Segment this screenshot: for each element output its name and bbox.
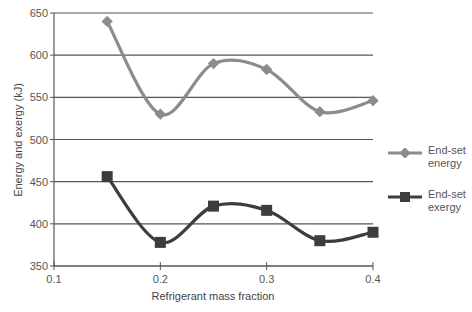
y-tick-label: 350: [30, 260, 48, 272]
legend-item-exergy: End-set exergy: [388, 188, 472, 232]
x-axis-title: Refrigerant mass fraction: [152, 290, 275, 302]
y-tick-label: 400: [30, 218, 48, 230]
diamond-marker-icon: [314, 106, 325, 117]
legend-text: exergy: [428, 201, 472, 214]
square-marker-icon: [102, 171, 113, 182]
diamond-marker-icon: [388, 148, 422, 158]
square-marker-icon: [314, 235, 325, 246]
x-tick-label: 0.4: [365, 273, 380, 285]
square-marker-icon: [368, 227, 379, 238]
square-marker-icon: [155, 237, 166, 248]
y-tick-label: 500: [30, 134, 48, 146]
gridlines: [54, 13, 373, 266]
series-end-set-energy: [102, 16, 379, 120]
x-tick-label: 0.1: [46, 273, 61, 285]
y-axis-title: Energy and exergy (kJ): [12, 83, 24, 197]
x-tick-label: 0.3: [259, 273, 274, 285]
y-tick-label: 450: [30, 176, 48, 188]
legend-text: End-set: [428, 188, 472, 201]
diamond-marker-icon: [102, 16, 113, 27]
series-end-set-exergy: [102, 171, 379, 248]
legend-label-energy: End-set energy: [428, 144, 472, 170]
y-tick-label: 600: [30, 49, 48, 61]
data-series: [102, 16, 379, 248]
legend-text: End-set: [428, 144, 472, 157]
y-tick-label: 550: [30, 91, 48, 103]
square-marker-icon: [208, 201, 219, 212]
y-tick-label: 650: [30, 7, 48, 19]
legend-text: energy: [428, 157, 472, 170]
x-tick-label: 0.2: [153, 273, 168, 285]
y-axis-ticks: 350400450500550600650: [30, 7, 54, 272]
legend-label-exergy: End-set exergy: [428, 188, 472, 214]
legend-item-energy: End-set energy: [388, 144, 472, 188]
legend: End-set energy End-set exergy: [388, 144, 472, 232]
square-marker-icon: [261, 205, 272, 216]
square-marker-icon: [388, 192, 422, 202]
